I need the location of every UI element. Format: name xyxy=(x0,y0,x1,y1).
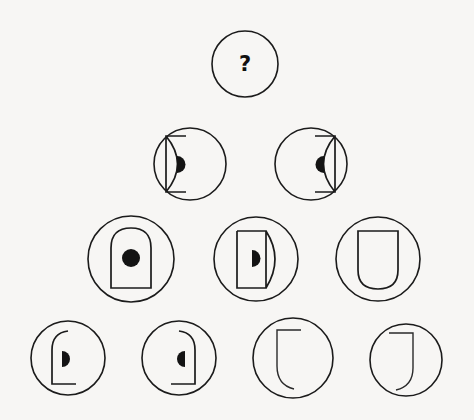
puzzle-cell-r4c4[interactable] xyxy=(370,324,442,396)
puzzle-diagram: ? xyxy=(0,0,474,420)
puzzle-canvas: ? xyxy=(0,0,474,420)
glyph-half-disk-right-facing xyxy=(252,250,261,267)
glyph-half-disk-left-facing xyxy=(177,351,185,367)
glyph-hook-bottom-left-curved xyxy=(277,330,301,389)
puzzle-cell-r3c1[interactable] xyxy=(88,216,174,302)
puzzle-cell-r1c1[interactable]: ? xyxy=(212,31,278,97)
glyph-half-disk-right-facing xyxy=(62,351,70,367)
glyph-dot-filled xyxy=(122,249,140,267)
cell-circle xyxy=(154,128,226,200)
puzzle-cell-r4c1[interactable] xyxy=(31,321,105,395)
puzzle-cell-r4c3[interactable] xyxy=(253,318,333,398)
puzzle-cell-r2c2[interactable] xyxy=(275,128,347,200)
glyph-half-disk-right-facing xyxy=(177,156,186,173)
cell-circle xyxy=(275,128,347,200)
puzzle-cell-r3c3[interactable] xyxy=(336,217,420,301)
glyph-arch-down xyxy=(358,231,398,289)
puzzle-cell-r4c2[interactable] xyxy=(142,321,216,395)
puzzle-cell-r2c1[interactable] xyxy=(154,128,226,200)
glyph-hook-bottom-right-curved xyxy=(389,333,413,390)
puzzle-cell-r3c2[interactable] xyxy=(214,217,298,301)
question-mark-label: ? xyxy=(239,52,251,76)
glyph-half-disk-left-facing xyxy=(316,156,324,173)
